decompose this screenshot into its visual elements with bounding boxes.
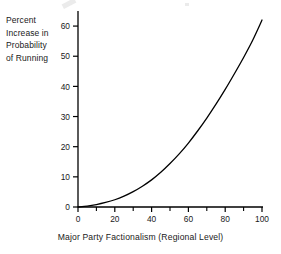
y-axis-title-line-1: Percent xyxy=(6,14,68,27)
y-axis-title-line-3: Probability xyxy=(6,39,68,52)
x-tick-label: 40 xyxy=(147,214,157,224)
x-tick-label: 100 xyxy=(255,214,269,224)
chart-figure: Percent Increase in Probability of Runni… xyxy=(0,0,281,254)
y-tick-label: 30 xyxy=(61,112,71,122)
y-tick-label: 40 xyxy=(61,82,71,92)
y-axis-title-line-2: Increase in xyxy=(6,27,68,40)
x-tick-label: 80 xyxy=(221,214,231,224)
x-axis-title: Major Party Factionalism (Regional Level… xyxy=(0,232,281,242)
data-series-line xyxy=(78,20,262,207)
y-tick-label: 20 xyxy=(61,142,71,152)
chart-axes xyxy=(78,11,263,207)
scan-artifact-secondary xyxy=(185,3,189,6)
x-tick-label: 0 xyxy=(76,214,81,224)
y-axis-title-line-4: of Running xyxy=(6,52,68,65)
x-axis-ticks: 020406080100 xyxy=(76,207,270,224)
x-tick-label: 20 xyxy=(110,214,120,224)
y-tick-label: 0 xyxy=(65,202,70,212)
y-axis-title: Percent Increase in Probability of Runni… xyxy=(6,14,68,64)
y-tick-label: 10 xyxy=(61,172,71,182)
x-tick-label: 60 xyxy=(184,214,194,224)
